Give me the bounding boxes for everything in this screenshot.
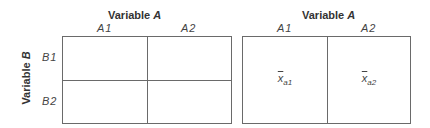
left-column-header-a1: A1: [97, 22, 112, 34]
variable-symbol: B: [20, 51, 32, 59]
mean-subscript: a2: [367, 78, 376, 87]
variable-symbol: A: [153, 9, 161, 21]
row-variable-title: Variable B: [20, 46, 32, 110]
cell-b1-a2: [148, 37, 231, 80]
right-column-header-a2: A2: [361, 22, 376, 34]
row-header-b2: B2: [42, 95, 57, 107]
cell-b1-a1: [63, 37, 147, 80]
variable-label: Variable: [20, 62, 32, 104]
cell-b2-a1: [63, 81, 147, 123]
right-column-variable-title: Variable A: [302, 9, 355, 21]
left-column-variable-title: Variable A: [108, 9, 161, 21]
cell-b2-a2: [148, 81, 231, 123]
variable-label: Variable: [108, 9, 150, 21]
right-grid: xa1 xa2: [242, 36, 411, 124]
variable-label: Variable: [302, 9, 344, 21]
variable-symbol: A: [347, 9, 355, 21]
row-header-b1: B1: [42, 51, 57, 63]
cell-mean-a2: xa2: [328, 72, 410, 87]
right-column-header-a1: A1: [277, 22, 292, 34]
mean-subscript: a1: [283, 78, 292, 87]
cell-mean-a1: xa1: [243, 72, 327, 87]
left-column-header-a2: A2: [181, 22, 196, 34]
left-grid: [62, 36, 232, 124]
